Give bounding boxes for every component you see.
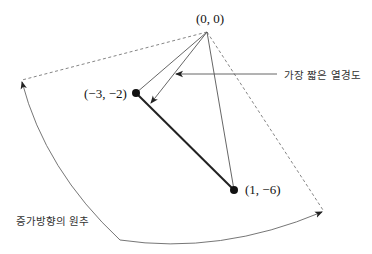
- line-origin-to-a: [136, 32, 207, 93]
- label-point-a: (−3, −2): [84, 86, 127, 102]
- label-origin: (0, 0): [196, 11, 224, 27]
- segment-a-to-b: [136, 93, 234, 190]
- label-cone-of-increase: 증가방향의 원추: [16, 213, 89, 228]
- cone-arc-arrow: [120, 212, 322, 244]
- label-point-b: (1, −6): [245, 182, 281, 198]
- label-shortest-isoquant: 가장 짧은 열경도: [284, 67, 361, 82]
- point-a-dot: [132, 89, 140, 97]
- shortest-isoquant-arrow: [151, 32, 207, 103]
- point-b-dot: [230, 186, 238, 194]
